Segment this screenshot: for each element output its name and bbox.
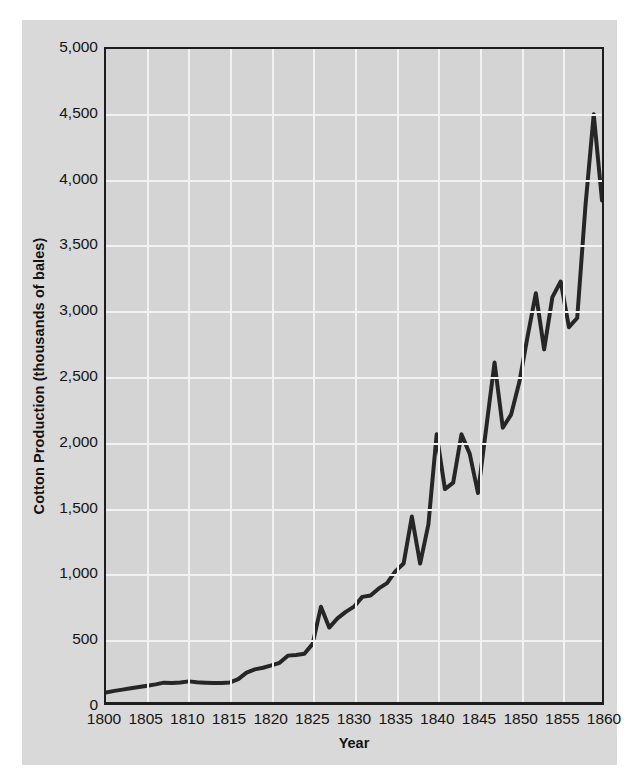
gridline-horizontal [106,377,602,379]
x-tick-label: 1855 [545,710,579,728]
x-axis-tick-labels: 1800180518101815182018251830183518401845… [104,710,604,734]
plot-inner [106,49,602,702]
x-tick-label: 1840 [420,710,454,728]
x-tick-label: 1835 [378,710,412,728]
cotton-production-line [106,49,602,702]
y-tick-label: 3,500 [34,235,98,253]
gridline-horizontal [106,443,602,445]
gridline-horizontal [106,509,602,511]
x-axis-title: Year [104,735,604,751]
x-tick-label: 1810 [170,710,204,728]
chart-figure: Cotton Production (thousands of bales) 0… [0,0,638,782]
gridline-vertical [480,49,482,702]
gridline-horizontal [106,640,602,642]
y-tick-label: 1,500 [34,499,98,517]
gridline-vertical [563,49,565,702]
x-tick-label: 1830 [337,710,371,728]
gridline-vertical [188,49,190,702]
x-tick-label: 1845 [462,710,496,728]
y-tick-label: 3,000 [34,301,98,319]
x-tick-label: 1825 [295,710,329,728]
plot-area [104,47,604,705]
gridline-vertical [272,49,274,702]
gridline-vertical [355,49,357,702]
gridline-vertical [522,49,524,702]
gridline-vertical [313,49,315,702]
gridline-vertical [438,49,440,702]
y-tick-label: 5,000 [34,38,98,56]
x-tick-label: 1805 [128,710,162,728]
x-tick-label: 1860 [587,710,621,728]
x-tick-label: 1850 [503,710,537,728]
x-tick-label: 1800 [87,710,121,728]
gridline-horizontal [106,114,602,116]
gridline-horizontal [106,180,602,182]
y-tick-label: 2,000 [34,433,98,451]
gridline-horizontal [106,245,602,247]
y-tick-label: 4,500 [34,104,98,122]
y-tick-label: 4,000 [34,170,98,188]
y-tick-label: 1,000 [34,564,98,582]
x-tick-label: 1820 [253,710,287,728]
gridline-horizontal [106,574,602,576]
y-axis-tick-labels: 05001,0001,5002,0002,5003,0003,5004,0004… [32,47,98,705]
y-tick-label: 500 [34,630,98,648]
y-tick-label: 2,500 [34,367,98,385]
x-tick-label: 1815 [212,710,246,728]
gridline-vertical [230,49,232,702]
gridline-horizontal [106,311,602,313]
gridline-vertical [397,49,399,702]
gridline-vertical [147,49,149,702]
